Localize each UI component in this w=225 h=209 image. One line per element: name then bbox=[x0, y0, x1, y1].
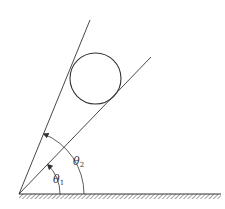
cylinder-circle bbox=[70, 53, 121, 104]
lower-incline-line bbox=[19, 57, 151, 194]
theta2-label: θ2 bbox=[73, 155, 84, 169]
theta1-label: θ1 bbox=[53, 173, 64, 187]
ground-hatch bbox=[19, 194, 221, 199]
wedge-circle-diagram: θ1 θ2 bbox=[0, 0, 225, 209]
